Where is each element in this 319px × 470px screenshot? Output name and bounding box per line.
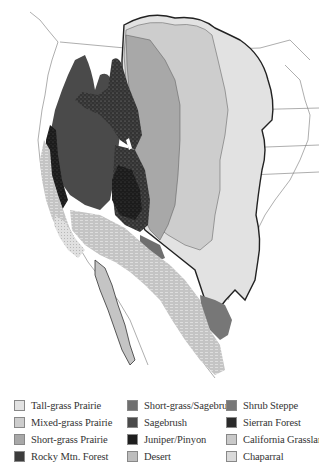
swatch-icon [226, 451, 237, 462]
vegetation-map [0, 0, 319, 395]
swatch-icon [14, 451, 25, 462]
swatch-icon [14, 400, 25, 411]
legend-item-short-grass-prairie: Short-grass Prairie [14, 432, 108, 446]
legend-item-short-grass-sagebrush: Short-grass/Sagebrush [127, 398, 236, 412]
legend-item-california-grassland: California Grassland [226, 432, 319, 446]
legend-item-chaparral: Chaparral [226, 449, 284, 463]
legend-item-sierran-forest: Sierran Forest [226, 415, 301, 429]
swatch-icon [127, 451, 138, 462]
map-legend: Tall-grass Prairie Mixed-grass Prairie S… [14, 398, 319, 468]
swatch-icon [127, 434, 138, 445]
swatch-icon [14, 417, 25, 428]
legend-item-mixed-grass-prairie: Mixed-grass Prairie [14, 415, 112, 429]
region-baja-peninsula [95, 260, 135, 365]
legend-item-tall-grass-prairie: Tall-grass Prairie [14, 398, 101, 412]
swatch-icon [226, 400, 237, 411]
swatch-icon [127, 400, 138, 411]
legend-item-shrub-steppe: Shrub Steppe [226, 398, 298, 412]
legend-item-sagebrush: Sagebrush [127, 415, 187, 429]
legend-item-juniper-pinyon: Juniper/Pinyon [127, 432, 206, 446]
legend-item-rocky-mtn-forest: Rocky Mtn. Forest [14, 449, 108, 463]
swatch-icon [226, 434, 237, 445]
legend-item-desert: Desert [127, 449, 171, 463]
swatch-icon [127, 417, 138, 428]
swatch-icon [14, 434, 25, 445]
swatch-icon [226, 417, 237, 428]
